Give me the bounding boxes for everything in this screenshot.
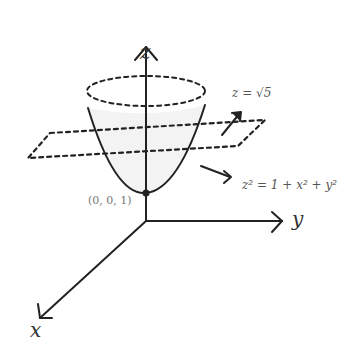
y-axis-label: y (292, 207, 303, 231)
z-axis-label: z (140, 40, 151, 64)
vertex-label: (0, 0, 1) (88, 194, 132, 207)
surface-equation-label: z² = 1 + x² + y² (242, 178, 337, 192)
diagram-canvas (0, 0, 364, 351)
x-arrowhead (38, 304, 52, 318)
x-axis (40, 221, 146, 318)
plane-equation-label: z = √5 (232, 86, 271, 100)
vertex-point (144, 191, 149, 196)
x-axis-label: x (30, 318, 41, 342)
